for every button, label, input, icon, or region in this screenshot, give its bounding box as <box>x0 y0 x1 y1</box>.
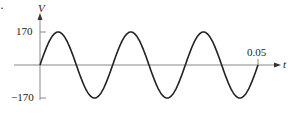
y-tick-label-min: −170 <box>11 92 34 103</box>
y-tick-label-max: 170 <box>16 26 33 37</box>
y-axis-label: V <box>38 3 45 14</box>
y-axis-arrow-icon <box>38 13 43 20</box>
x-axis-label: t <box>283 59 286 70</box>
x-tick-label-end: 0.05 <box>247 47 266 58</box>
voltage-sine-chart <box>0 0 288 114</box>
corner-mark: · <box>0 2 4 14</box>
x-axis-arrow-icon <box>274 63 281 68</box>
